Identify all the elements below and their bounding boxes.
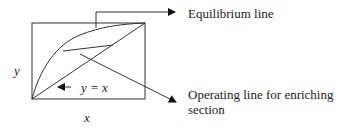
equilibrium-label: Equilibrium line <box>188 6 274 21</box>
diagonal-label: y = x <box>79 80 108 95</box>
operating-label-line1: Operating line for enriching <box>188 87 334 102</box>
equilibrium-callout-arrow <box>96 12 175 28</box>
y-axis-label: y <box>12 63 20 78</box>
mccabe-thiele-diagram: Equilibrium line Operating line for enri… <box>0 0 351 130</box>
x-axis-label: x <box>83 110 90 125</box>
operating-label-line2: section <box>188 102 225 117</box>
